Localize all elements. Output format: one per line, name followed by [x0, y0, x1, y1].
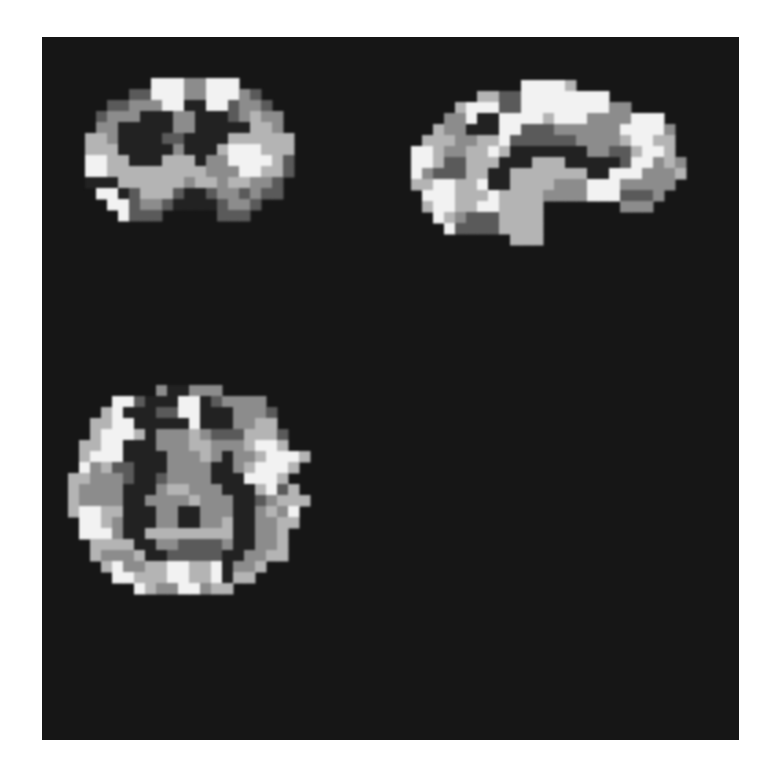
- parcel-voxel: [189, 473, 201, 485]
- parcel-voxel: [140, 133, 152, 145]
- parcel-voxel: [244, 506, 256, 518]
- parcel-voxel: [134, 506, 146, 518]
- parcel-voxel: [68, 473, 80, 485]
- parcel-voxel: [156, 407, 168, 419]
- parcel-voxel: [222, 506, 234, 518]
- parcel-voxel: [521, 80, 533, 92]
- parcel-voxel: [255, 484, 267, 496]
- parcel-voxel: [299, 495, 311, 507]
- parcel-voxel: [200, 550, 212, 562]
- parcel-voxel: [145, 561, 157, 573]
- parcel-voxel: [96, 111, 108, 123]
- parcel-voxel: [620, 201, 632, 213]
- parcel-voxel: [411, 168, 423, 180]
- parcel-voxel: [642, 179, 654, 191]
- parcel-voxel: [587, 124, 599, 136]
- parcel-voxel: [206, 155, 218, 167]
- parcel-voxel: [466, 146, 478, 158]
- parcel-voxel: [96, 177, 108, 189]
- parcel-voxel: [444, 157, 456, 169]
- parcel-voxel: [184, 100, 196, 112]
- parcel-voxel: [642, 201, 654, 213]
- parcel-voxel: [156, 418, 168, 430]
- parcel-voxel: [112, 495, 124, 507]
- parcel-voxel: [90, 462, 102, 474]
- parcel-voxel: [521, 102, 533, 114]
- parcel-voxel: [101, 517, 113, 529]
- parcel-voxel: [173, 166, 185, 178]
- parcel-voxel: [222, 484, 234, 496]
- parcel-voxel: [189, 561, 201, 573]
- parcel-voxel: [151, 188, 163, 200]
- parcel-voxel: [466, 102, 478, 114]
- parcel-voxel: [233, 506, 245, 518]
- parcel-voxel: [631, 179, 643, 191]
- parcel-voxel: [261, 122, 273, 134]
- parcel-voxel: [211, 462, 223, 474]
- parcel-voxel: [134, 473, 146, 485]
- parcel-voxel: [266, 550, 278, 562]
- parcel-voxel: [272, 177, 284, 189]
- parcel-voxel: [178, 506, 190, 518]
- parcel-voxel: [521, 190, 533, 202]
- parcel-voxel: [189, 583, 201, 595]
- parcel-voxel: [642, 157, 654, 169]
- parcel-voxel: [488, 201, 500, 213]
- parcel-voxel: [140, 199, 152, 211]
- parcel-voxel: [167, 429, 179, 441]
- parcel-voxel: [455, 223, 467, 235]
- parcel-voxel: [288, 462, 300, 474]
- parcel-voxel: [90, 418, 102, 430]
- parcel-voxel: [631, 190, 643, 202]
- parcel-voxel: [554, 190, 566, 202]
- parcel-voxel: [189, 407, 201, 419]
- parcel-voxel: [576, 190, 588, 202]
- parcel-voxel: [96, 133, 108, 145]
- parcel-voxel: [145, 462, 157, 474]
- parcel-voxel: [609, 146, 621, 158]
- parcel-voxel: [510, 91, 522, 103]
- parcel-voxel: [184, 133, 196, 145]
- parcel-voxel: [653, 157, 665, 169]
- parcel-voxel: [532, 91, 544, 103]
- parcel-voxel: [85, 166, 97, 178]
- parcel-voxel: [565, 157, 577, 169]
- parcel-voxel: [444, 113, 456, 125]
- parcel-voxel: [134, 418, 146, 430]
- parcel-voxel: [195, 155, 207, 167]
- parcel-voxel: [488, 146, 500, 158]
- parcel-voxel: [178, 550, 190, 562]
- parcel-voxel: [112, 506, 124, 518]
- parcel-voxel: [189, 539, 201, 551]
- parcel-voxel: [173, 111, 185, 123]
- parcel-voxel: [101, 462, 113, 474]
- parcel-voxel: [255, 506, 267, 518]
- parcel-voxel: [466, 212, 478, 224]
- parcel-voxel: [277, 473, 289, 485]
- parcel-voxel: [488, 190, 500, 202]
- parcel-voxel: [184, 177, 196, 189]
- parcel-voxel: [261, 155, 273, 167]
- parcel-voxel: [217, 133, 229, 145]
- parcel-voxel: [455, 201, 467, 213]
- parcel-voxel: [576, 157, 588, 169]
- parcel-voxel: [162, 78, 174, 90]
- parcel-voxel: [162, 155, 174, 167]
- parcel-voxel: [79, 506, 91, 518]
- parcel-voxel: [642, 168, 654, 180]
- parcel-voxel: [255, 429, 267, 441]
- parcel-voxel: [184, 199, 196, 211]
- parcel-voxel: [266, 429, 278, 441]
- parcel-voxel: [107, 100, 119, 112]
- parcel-voxel: [411, 146, 423, 158]
- parcel-voxel: [200, 572, 212, 584]
- parcel-voxel: [620, 135, 632, 147]
- parcel-voxel: [217, 144, 229, 156]
- parcel-voxel: [620, 124, 632, 136]
- parcel-voxel: [277, 429, 289, 441]
- parcel-voxel: [488, 168, 500, 180]
- parcel-voxel: [211, 473, 223, 485]
- parcel-voxel: [255, 495, 267, 507]
- parcel-voxel: [510, 179, 522, 191]
- parcel-voxel: [101, 473, 113, 485]
